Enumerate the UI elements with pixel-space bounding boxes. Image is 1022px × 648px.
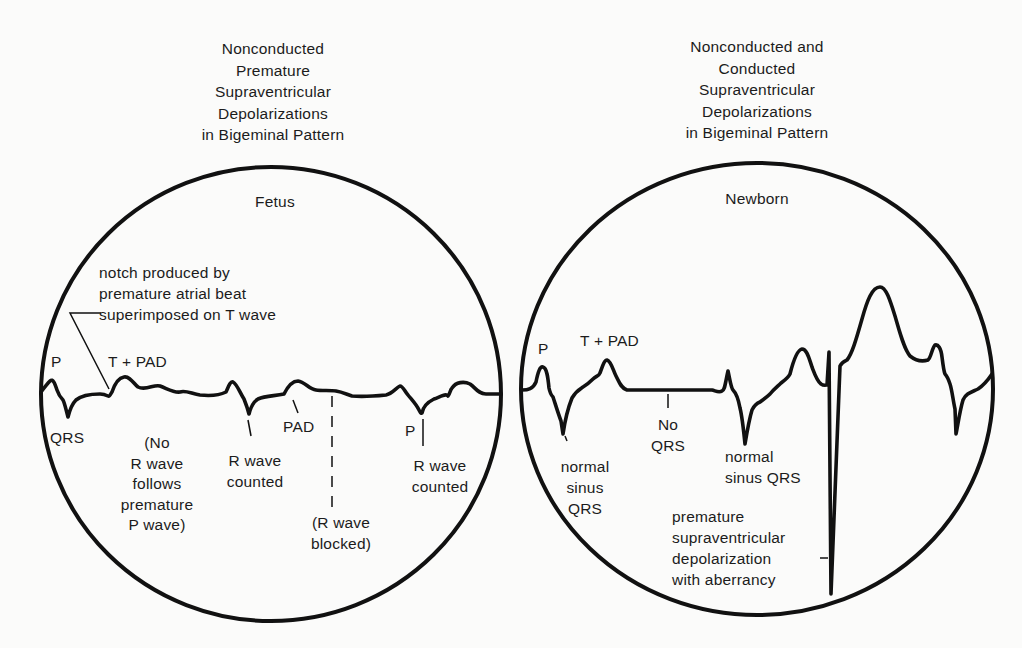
- r-wave-counted-label-2: R wave counted: [401, 455, 479, 497]
- fetus-panel-title: Nonconducted Premature Supraventricular …: [168, 38, 378, 146]
- newborn-t-pad-label: T + PAD: [580, 330, 639, 351]
- normal-sinus-qrs-label-2: normal sinus QRS: [725, 446, 801, 488]
- pad-leader: [293, 400, 298, 413]
- aberrancy-label: premature supraventricular depolarizatio…: [672, 506, 785, 590]
- no-r-wave-note: (No R wave follows premature P wave): [109, 433, 205, 536]
- r-wave-counted-leader-1: [248, 420, 251, 436]
- newborn-p-wave-label: P: [538, 338, 549, 359]
- fetus-p-wave-label: P: [51, 351, 62, 372]
- notch-annotation: notch produced by premature atrial beat …: [99, 262, 276, 325]
- normal-sinus-leader-1: [565, 436, 567, 441]
- ecg-diagram: Nonconducted Premature Supraventricular …: [0, 0, 1022, 648]
- newborn-label: Newborn: [712, 188, 802, 209]
- r-wave-blocked-note: (R wave blocked): [303, 512, 379, 554]
- pad-label: PAD: [283, 416, 314, 437]
- fetus-p-wave-label-2: P: [405, 420, 416, 441]
- fetus-qrs-label: QRS: [50, 427, 84, 448]
- newborn-panel-title: Nonconducted and Conducted Supraventricu…: [652, 36, 862, 144]
- fetus-label: Fetus: [240, 191, 310, 212]
- fetus-t-pad-label: T + PAD: [108, 351, 167, 372]
- r-wave-counted-label-1: R wave counted: [215, 450, 295, 492]
- normal-sinus-qrs-label-1: normal sinus QRS: [552, 456, 618, 519]
- fetus-ecg-trace: [41, 377, 501, 417]
- no-qrs-label: No QRS: [646, 414, 690, 456]
